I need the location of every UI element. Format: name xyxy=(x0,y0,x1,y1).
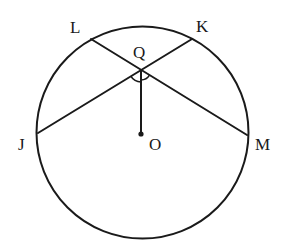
circle-diagram: L K Q J O M xyxy=(0,0,290,251)
label-O: O xyxy=(149,135,161,154)
label-J: J xyxy=(18,135,25,154)
angle-JQO-mark xyxy=(131,76,141,82)
center-point-O xyxy=(138,131,143,136)
label-K: K xyxy=(196,17,209,36)
label-L: L xyxy=(70,18,80,37)
label-Q: Q xyxy=(133,43,145,62)
label-M: M xyxy=(255,135,270,154)
angle-OQM-mark xyxy=(141,75,150,80)
